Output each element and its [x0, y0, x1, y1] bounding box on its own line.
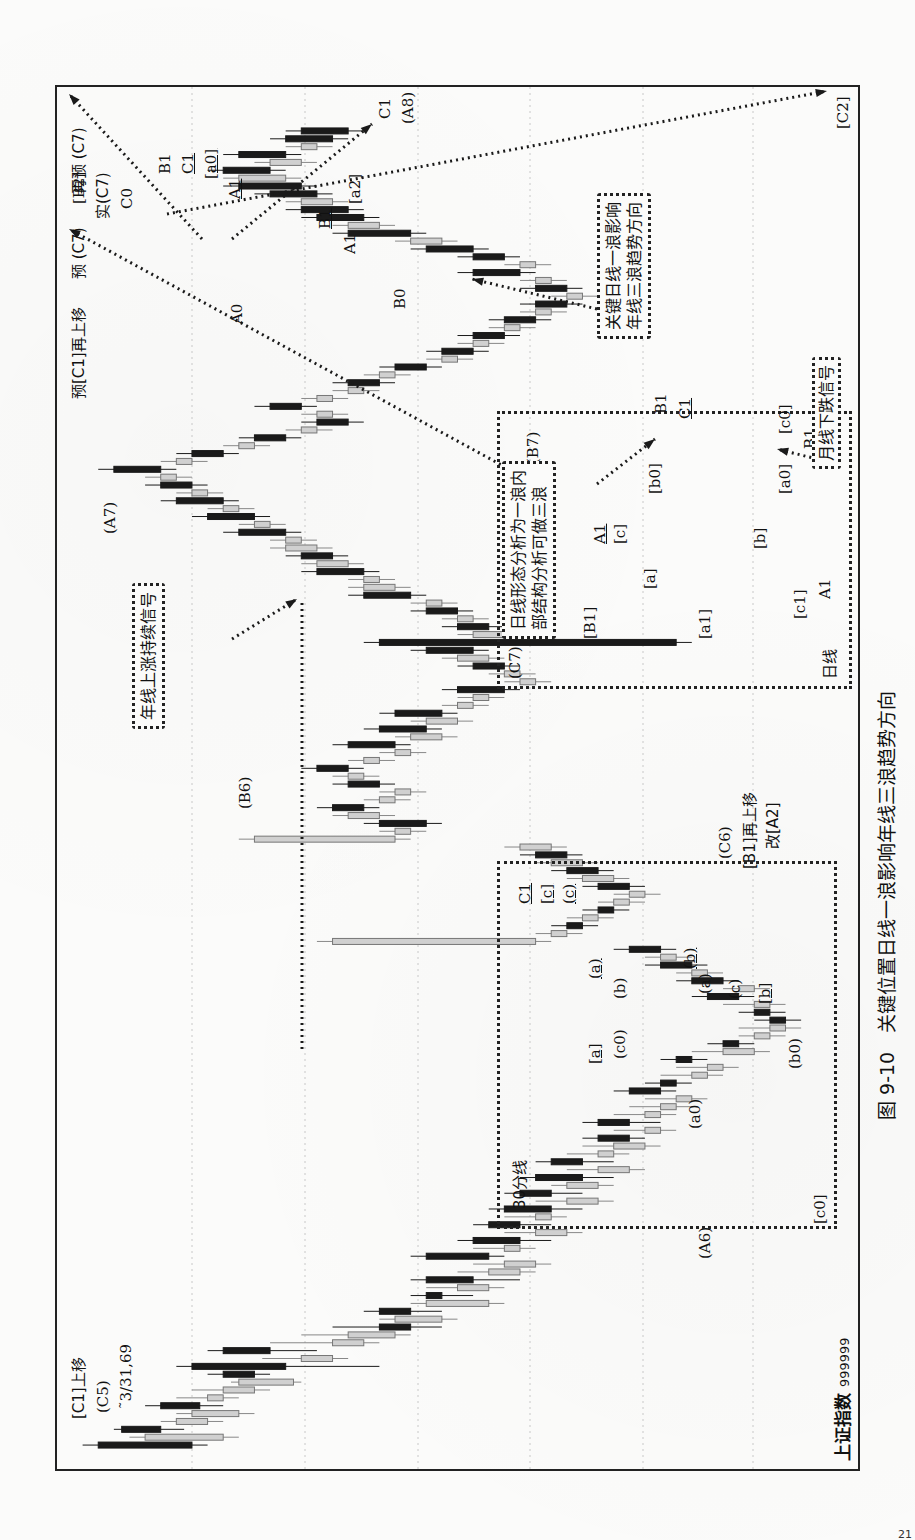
inset-daily-a: [a] [642, 568, 658, 589]
candle [426, 1253, 488, 1259]
inset-daily-c1: [c1] [792, 589, 808, 619]
candle [348, 781, 379, 787]
candle [473, 333, 504, 339]
candle [176, 498, 223, 504]
inset-30min-b0-par: (b0) [787, 1038, 803, 1069]
inset-30min-a-par: (a) [697, 973, 713, 994]
candle [348, 388, 364, 394]
label-b1: B1 [157, 153, 173, 174]
candle [223, 1387, 254, 1393]
candle [442, 356, 458, 362]
label-b1-underline: B1 [317, 208, 333, 229]
candle [395, 364, 426, 370]
candle [426, 647, 473, 653]
candle [473, 695, 489, 701]
note-key-daily-wave: 关键日线一浪影响年线三浪趋势方向 [597, 193, 651, 339]
candle [520, 262, 536, 268]
candle [348, 1332, 395, 1338]
candle [161, 482, 192, 488]
inset-daily-b: [b] [752, 528, 768, 549]
label-c1-up: [C1]上移 [71, 1357, 87, 1419]
candle [301, 199, 332, 205]
candle [239, 443, 255, 449]
inset-30min-a-par-u: (a) [587, 958, 603, 979]
candle [379, 1308, 410, 1314]
candle [504, 317, 535, 323]
candle [458, 702, 474, 708]
label-a0: A0 [229, 304, 245, 324]
label-a6: (A6) [697, 1227, 713, 1259]
candle [208, 514, 255, 520]
candle [364, 757, 380, 763]
candle [122, 1426, 161, 1432]
inset-daily-b1: [B1] [582, 607, 598, 639]
candle [536, 1230, 567, 1236]
label-c2: [C2] [835, 96, 851, 129]
candle [379, 797, 395, 803]
candle [286, 136, 333, 142]
candle [536, 301, 567, 307]
candle [536, 852, 567, 858]
label-yu-c7: 预 (C7) [71, 228, 87, 280]
inset-30min-a-brk: [a] [587, 1043, 603, 1064]
inset-30min-b-par: (b) [612, 978, 628, 999]
candle [192, 1411, 239, 1417]
candle [364, 592, 411, 598]
candle [395, 1316, 442, 1322]
label-gai-a2: 改[A2] [765, 802, 781, 849]
label-zai-yu-c7: 再预 (C7) [71, 128, 87, 195]
candle [192, 1363, 286, 1369]
candle [270, 403, 301, 409]
inset-30min-c-par2: (c) [727, 979, 743, 999]
label-c5: (C5) [95, 1380, 111, 1413]
candle [364, 584, 395, 590]
candle [301, 1356, 332, 1362]
candle [379, 726, 426, 732]
candle [379, 820, 426, 826]
candle [348, 773, 364, 779]
note-monthly-down-signal: 月线下跌信号 [812, 357, 841, 469]
candle [395, 710, 442, 716]
inset-daily-c7: (C7) [507, 646, 523, 679]
candle [504, 1261, 535, 1267]
candle [176, 1418, 207, 1424]
label-a8: (A8) [400, 92, 416, 124]
candle [333, 1340, 364, 1346]
label-c1-underline: C1 [180, 153, 196, 174]
inset-30min-c-brk: [c] [539, 884, 555, 904]
candle [473, 270, 520, 276]
inset-daily-a1: [a1] [697, 609, 713, 639]
candle [286, 537, 302, 543]
candle [223, 1371, 254, 1377]
candle [176, 458, 192, 464]
inset-daily-b0: [b0] [647, 463, 663, 494]
candle [301, 553, 332, 559]
inset-daily-title: 日线 [822, 649, 838, 679]
candle [473, 254, 504, 260]
candle [442, 348, 473, 354]
candle [223, 506, 239, 512]
inset-30min-c0-par: (c0) [612, 1029, 628, 1059]
candle [536, 309, 552, 315]
candle [254, 836, 395, 842]
candle [520, 844, 551, 850]
inset-daily-a1-low: A1 [817, 579, 833, 599]
candle [426, 246, 473, 252]
candle [161, 1403, 200, 1409]
candle [458, 616, 474, 622]
candle [208, 1395, 224, 1401]
candle [301, 128, 348, 134]
label-a7: (A7) [102, 502, 118, 534]
chart-canvas: 上证指数 999999 [C1]上移 (C5) ˜3/31,69 (A6) (B… [57, 87, 858, 1469]
candle [536, 277, 552, 283]
candle [379, 1324, 410, 1330]
candle [504, 325, 520, 331]
candle [192, 451, 223, 457]
label-b0: B0 [392, 288, 408, 309]
inset-30min-a0-par: (a0) [687, 1099, 703, 1129]
inset-30min-c-par: (c) [561, 884, 577, 904]
page-number: 21 [898, 1528, 912, 1540]
note-yearly-rise-signal: 年线上涨持续信号 [132, 583, 165, 729]
candle [426, 1293, 442, 1299]
inset-daily-a1-u: A1 [592, 524, 608, 544]
